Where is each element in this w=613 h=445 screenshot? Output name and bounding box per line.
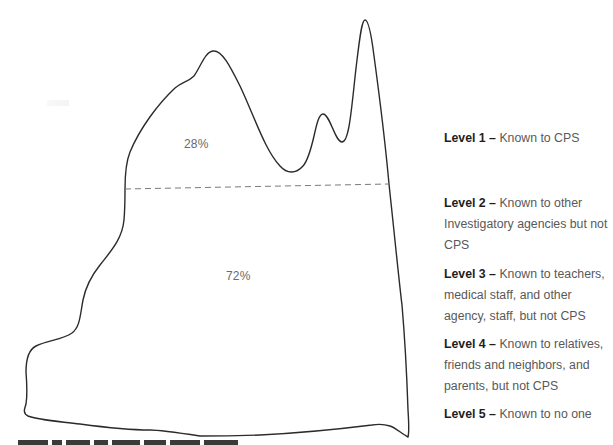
legend-level-label: Level 3	[444, 267, 486, 281]
lower-percent-label: 72%	[226, 269, 251, 283]
legend-level-label: Level 2	[444, 196, 486, 210]
legend-description: Known to no one	[499, 407, 591, 421]
waterline-divider	[125, 184, 389, 189]
legend-dash: –	[486, 196, 500, 210]
legend-dash: –	[486, 337, 500, 351]
legend-dash: –	[486, 267, 500, 281]
legend-level-label: Level 5	[444, 407, 486, 421]
legend-level-label: Level 1	[444, 131, 486, 145]
faint-mark	[47, 100, 69, 106]
legend-item-level-2: Level 2 – Known to other Investigatory a…	[444, 193, 609, 256]
legend-item-level-1: Level 1 – Known to CPS	[444, 128, 613, 149]
iceberg-outline	[24, 20, 408, 437]
clipped-figure-caption	[18, 440, 242, 445]
legend-dash: –	[486, 131, 500, 145]
legend-level-label: Level 4	[444, 337, 486, 351]
upper-percent-label: 28%	[184, 137, 209, 151]
legend-item-level-4: Level 4 – Known to relatives, friends an…	[444, 334, 604, 397]
legend-item-level-5: Level 5 – Known to no one	[444, 404, 613, 425]
legend-dash: –	[486, 407, 500, 421]
legend-item-level-3: Level 3 – Known to teachers, medical sta…	[444, 264, 613, 327]
legend-description: Known to CPS	[499, 131, 579, 145]
